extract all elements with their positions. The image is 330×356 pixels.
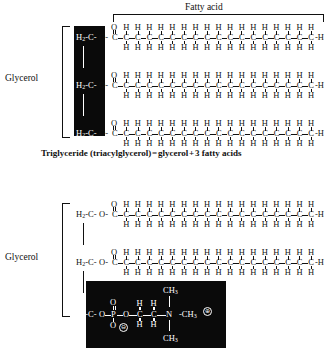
choline-hydrogen-lower: H	[151, 320, 157, 329]
chain-bond	[210, 215, 216, 216]
head-bond	[143, 315, 151, 316]
chain-hydrogen-lower: H	[204, 268, 210, 277]
chain-hydrogen-lower: H	[239, 139, 245, 148]
chain-hydrogen-lower: H	[146, 268, 152, 277]
choline-nitrogen: N	[166, 310, 172, 319]
chain-bond	[187, 86, 193, 87]
chain-h-bond-upper	[230, 256, 231, 260]
chain-h-bond-lower	[126, 218, 127, 222]
chain-h-bond-upper	[149, 256, 150, 260]
chain-hydrogen-lower: H	[135, 91, 141, 100]
chain-h-bond-lower	[265, 218, 266, 222]
chain-hydrogen-lower: H	[262, 268, 268, 277]
chain-h-bond-upper	[288, 127, 289, 131]
chain-h-bond-lower	[230, 41, 231, 45]
glycerol-carbon-group-head: H2-C-	[76, 310, 96, 321]
chain-hydrogen-lower: H	[273, 91, 279, 100]
chain-bond	[279, 263, 285, 264]
chain-hydrogen-lower: H	[308, 268, 314, 277]
chain-bond	[141, 86, 147, 87]
chain-h-bond-lower	[288, 137, 289, 141]
phosphate-double-bond	[113, 306, 116, 310]
chain-h-bond-upper	[311, 127, 312, 131]
chain-hydrogen-lower: H	[273, 43, 279, 52]
chain-hydrogen-lower: H	[135, 43, 141, 52]
positive-charge-icon: ⊕	[203, 307, 212, 316]
chain-h-bond-lower	[126, 137, 127, 141]
chain-h-bond-lower	[172, 89, 173, 93]
chain-bond	[268, 215, 274, 216]
chain-h-bond-upper	[172, 208, 173, 212]
chain-h-bond-lower	[218, 218, 219, 222]
chain-bond	[164, 134, 170, 135]
chain-hydrogen-lower: H	[158, 220, 164, 229]
ester-oxygen: O-	[99, 33, 108, 42]
chain-h-bond-lower	[265, 137, 266, 141]
choline-methyl-bottom: CH3	[163, 334, 178, 345]
chain-hydrogen-lower: H	[181, 43, 187, 52]
chain-hydrogen-lower: H	[181, 268, 187, 277]
fatty-acid-label: Fatty acid	[185, 2, 223, 12]
chain-h-bond-lower	[311, 137, 312, 141]
chain-h-bond-upper	[311, 79, 312, 83]
chain-bond	[210, 38, 216, 39]
chain-hydrogen-lower: H	[250, 220, 256, 229]
chain-h-bond-upper	[207, 256, 208, 260]
choline-h-bond-upper	[153, 307, 154, 310]
chain-h-bond-lower	[149, 266, 150, 270]
chain-h-bond-upper	[230, 31, 231, 35]
chain-hydrogen-lower: H	[308, 43, 314, 52]
chain-hydrogen-lower: H	[192, 91, 198, 100]
chain-bond	[291, 134, 297, 135]
chain-h-bond-upper	[149, 31, 150, 35]
chain-h-bond-upper	[230, 79, 231, 83]
chain-hydrogen-lower: H	[123, 43, 129, 52]
chain-h-bond-lower	[230, 137, 231, 141]
chain-hydrogen-lower: H	[123, 268, 129, 277]
chain-h-bond-lower	[265, 41, 266, 45]
chain-h-bond-lower	[172, 218, 173, 222]
glycerol-carbon-group: H2-C-	[76, 210, 96, 221]
chain-bond	[302, 215, 308, 216]
chain-hydrogen-lower: H	[250, 268, 256, 277]
chain-h-bond-lower	[161, 137, 162, 141]
chain-bond	[164, 86, 170, 87]
chain-hydrogen-lower: H	[296, 91, 302, 100]
chain-bond	[141, 215, 147, 216]
chain-h-bond-upper	[218, 79, 219, 83]
chain-hydrogen-lower: H	[262, 139, 268, 148]
chain-bond	[152, 263, 158, 264]
chain-h-bond-upper	[230, 127, 231, 131]
ester-oxygen: O-	[99, 258, 108, 267]
chain-h-bond-upper	[184, 127, 185, 131]
chain-hydrogen-lower: H	[158, 91, 164, 100]
chain-h-bond-upper	[299, 79, 300, 83]
chain-terminal-hydrogen: -H	[315, 33, 324, 42]
chain-hydrogen-lower: H	[146, 43, 152, 52]
chain-hydrogen-lower: H	[169, 139, 175, 148]
glycerol-bond-2	[83, 94, 84, 116]
chain-bond	[268, 263, 274, 264]
chain-bond	[302, 38, 308, 39]
chain-bond	[164, 38, 170, 39]
glycerol-bond-1	[83, 46, 84, 68]
chain-h-bond-lower	[149, 89, 150, 93]
chain-hydrogen-lower: H	[123, 139, 129, 148]
choline-h-bond-lower	[139, 318, 140, 321]
chain-h-bond-lower	[241, 137, 242, 141]
negative-charge-icon: ⊖	[119, 323, 128, 332]
ester-oxygen: O-	[99, 210, 108, 219]
chain-bond	[141, 263, 147, 264]
chain-h-bond-upper	[276, 256, 277, 260]
chain-hydrogen-lower: H	[262, 43, 268, 52]
chain-hydrogen-lower: H	[285, 91, 291, 100]
chain-h-bond-lower	[311, 89, 312, 93]
chain-h-bond-lower	[126, 266, 127, 270]
chain-h-bond-lower	[184, 89, 185, 93]
chain-h-bond-upper	[265, 31, 266, 35]
chain-h-bond-upper	[138, 208, 139, 212]
chain-h-bond-lower	[265, 89, 266, 93]
chain-hydrogen-lower: H	[296, 220, 302, 229]
chain-hydrogen-lower: H	[192, 220, 198, 229]
chain-h-bond-lower	[138, 89, 139, 93]
